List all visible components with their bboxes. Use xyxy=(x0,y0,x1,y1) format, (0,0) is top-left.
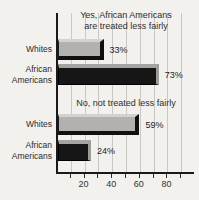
category-label-whites-yes: Whites xyxy=(0,44,52,55)
tick-mark-10 xyxy=(70,174,71,178)
bar-chart: Whites African Americans Whites African … xyxy=(0,0,199,200)
tick-label-60: 60 xyxy=(127,179,151,189)
group-title-no-line1: No, not treated less fairly xyxy=(76,98,176,108)
bar-whites-yes xyxy=(58,39,104,60)
group-title-yes: Yes, African Americans are treated less … xyxy=(58,10,194,32)
tick-mark-60 xyxy=(139,174,140,178)
tick-label-80: 80 xyxy=(154,179,178,189)
category-label-african-americans-no: African Americans xyxy=(0,140,52,161)
tick-mark-50 xyxy=(125,174,126,178)
tick-mark-20 xyxy=(84,174,85,178)
tick-label-20: 20 xyxy=(72,179,96,189)
bar-value-african-americans-yes: 73% xyxy=(165,70,183,80)
bar-value-african-americans-no: 24% xyxy=(97,146,115,156)
tick-mark-30 xyxy=(97,174,98,178)
bar-row-african-americans-no: 24% xyxy=(58,140,194,161)
bar-row-whites-yes: 33% xyxy=(58,39,194,60)
bar-value-whites-yes: 33% xyxy=(110,45,128,55)
bar-row-african-americans-yes: 73% xyxy=(58,64,194,85)
group-title-yes-line1: Yes, African Americans xyxy=(80,10,172,20)
tick-mark-90 xyxy=(180,174,181,178)
category-label-whites-no: Whites xyxy=(0,119,52,130)
group-title-no: No, not treated less fairly xyxy=(58,98,194,109)
tick-label-40: 40 xyxy=(99,179,123,189)
bar-african-americans-yes xyxy=(58,64,159,85)
bar-whites-no xyxy=(58,114,139,135)
plot-area: Yes, African Americans are treated less … xyxy=(56,13,194,174)
tick-mark-70 xyxy=(153,174,154,178)
bar-african-americans-no xyxy=(58,140,91,161)
tick-mark-80 xyxy=(166,174,167,178)
tick-mark-40 xyxy=(111,174,112,178)
group-title-yes-line2: are treated less fairly xyxy=(84,21,168,31)
x-axis: 20406080 xyxy=(56,174,196,196)
category-label-african-americans-yes: African Americans xyxy=(0,64,52,85)
bar-row-whites-no: 59% xyxy=(58,114,194,135)
bar-value-whites-no: 59% xyxy=(145,120,163,130)
